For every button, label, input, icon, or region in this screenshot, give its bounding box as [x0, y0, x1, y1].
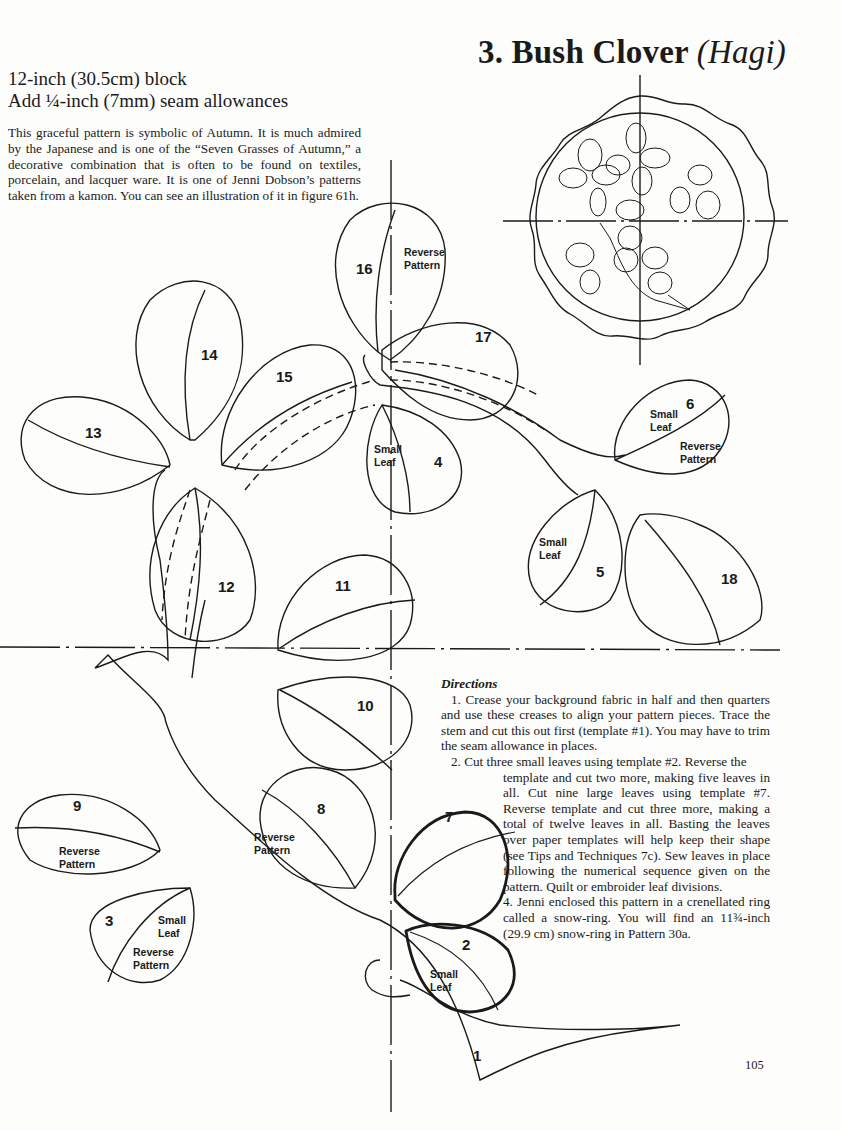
label-3: 3	[105, 912, 113, 929]
label-13: 13	[85, 424, 102, 441]
svg-text:Small: Small	[650, 408, 678, 420]
svg-text:Leaf: Leaf	[650, 421, 672, 433]
svg-text:Pattern: Pattern	[133, 959, 169, 971]
label-8: 8	[317, 800, 325, 817]
label-17: 17	[475, 328, 492, 345]
direction-step-2: 2. Cut three small leaves using template…	[441, 754, 770, 770]
label-15: 15	[276, 368, 293, 385]
direction-step-1: 1. Crease your background fabric in half…	[441, 692, 770, 754]
svg-text:Pattern: Pattern	[680, 453, 716, 465]
svg-text:Leaf: Leaf	[430, 981, 452, 993]
label-10: 10	[357, 697, 374, 714]
label-1: 1	[473, 1047, 481, 1064]
directions-heading: Directions	[441, 676, 770, 692]
pattern-diagram: 16 Reverse Pattern 14 13 15 17 4 Small L…	[0, 0, 841, 1131]
label-12: 12	[218, 578, 235, 595]
label-9: 9	[73, 797, 81, 814]
svg-text:Leaf: Leaf	[374, 456, 396, 468]
svg-text:Small: Small	[158, 914, 186, 926]
label-18: 18	[721, 570, 738, 587]
svg-text:Pattern: Pattern	[254, 844, 290, 856]
direction-step-2-cont: template and cut two more, making five l…	[503, 770, 770, 895]
label-6: 6	[686, 395, 694, 412]
label-14: 14	[201, 346, 218, 363]
svg-text:Reverse: Reverse	[404, 246, 445, 258]
svg-text:Pattern: Pattern	[404, 259, 440, 271]
svg-text:Reverse: Reverse	[254, 831, 295, 843]
page-number: 105	[745, 1058, 764, 1073]
kamon-illustration	[503, 75, 788, 365]
svg-text:Small: Small	[539, 536, 567, 548]
label-5: 5	[596, 563, 604, 580]
svg-text:Reverse: Reverse	[59, 845, 100, 857]
label-11: 11	[335, 577, 351, 594]
svg-text:Reverse: Reverse	[133, 946, 174, 958]
direction-step-4: 4. Jenni enclosed this pattern in a cren…	[503, 894, 770, 941]
svg-text:Leaf: Leaf	[539, 549, 561, 561]
label-4: 4	[434, 453, 443, 470]
svg-text:Small: Small	[430, 968, 458, 980]
svg-text:Small: Small	[374, 443, 402, 455]
svg-text:Leaf: Leaf	[158, 927, 180, 939]
svg-text:Reverse: Reverse	[680, 440, 721, 452]
svg-text:Pattern: Pattern	[59, 858, 95, 870]
label-16: 16	[356, 260, 373, 277]
directions: Directions 1. Crease your background fab…	[441, 676, 770, 941]
